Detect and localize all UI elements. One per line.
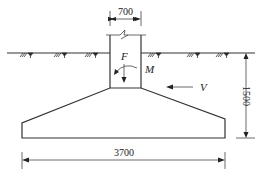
footing-depth-dimension: 1500 bbox=[236, 53, 255, 138]
foundation-diagram: 700 F M V 1500 bbox=[0, 0, 259, 185]
load-V-label: V bbox=[200, 81, 208, 93]
footing-width-dimension: 3700 bbox=[22, 147, 225, 169]
arrow-left-icon bbox=[166, 85, 173, 90]
footing-width-label: 3700 bbox=[114, 147, 134, 158]
moment-M-label: M bbox=[144, 63, 155, 75]
column-break-line bbox=[106, 30, 146, 39]
shear-load-V: V bbox=[166, 81, 208, 93]
moment-M: M bbox=[114, 63, 155, 75]
diagram-svg: 700 F M V 1500 bbox=[0, 0, 259, 185]
load-F-label: F bbox=[120, 50, 128, 62]
footing bbox=[22, 88, 225, 138]
footing-depth-label: 1500 bbox=[241, 86, 252, 106]
column-width-dimension: 700 bbox=[110, 6, 141, 26]
arrow-down-icon bbox=[122, 77, 127, 83]
column-width-label: 700 bbox=[118, 6, 133, 17]
